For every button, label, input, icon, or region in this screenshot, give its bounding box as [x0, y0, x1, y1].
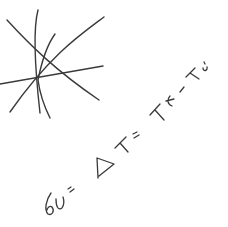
- glyph-T: [115, 137, 128, 152]
- glyph-i: [203, 62, 207, 71]
- glyph-equals-1: [68, 187, 74, 192]
- glyph-0: [56, 197, 64, 209]
- equation-handwriting: [0, 0, 228, 227]
- sketch-canvas: 60 = ΔT = Tf − Ti: [0, 0, 228, 227]
- glyph-minus: [180, 87, 184, 92]
- glyph-f: [166, 96, 174, 106]
- glyph-delta: [97, 158, 114, 178]
- glyph-T2: [150, 104, 164, 120]
- glyph-6: [46, 193, 53, 214]
- glyph-equals-2: [133, 132, 139, 138]
- glyph-T3: [186, 68, 199, 79]
